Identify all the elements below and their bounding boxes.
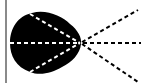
- outer-ray-bottom: [82, 44, 138, 82]
- diagram-frame: [0, 0, 144, 83]
- outer-ray-top: [82, 10, 138, 42]
- lens-ray-diagram: [0, 0, 144, 83]
- outer-rays: [82, 10, 141, 82]
